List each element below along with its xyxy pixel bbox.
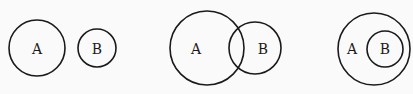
set-relation-diagrams: A B A B A B [0,0,413,94]
set-a-label: A [190,41,202,57]
subset-diagram: A B [338,13,410,85]
set-b-label: B [92,41,102,57]
set-a-label: A [31,41,43,57]
set-a-label: A [346,41,358,57]
set-b-circle [229,22,281,74]
overlapping-sets-diagram: A B [170,11,281,85]
disjoint-sets-diagram: A B [9,20,116,76]
set-b-label: B [380,41,390,57]
set-a-circle [170,11,244,85]
set-b-label: B [258,41,268,57]
